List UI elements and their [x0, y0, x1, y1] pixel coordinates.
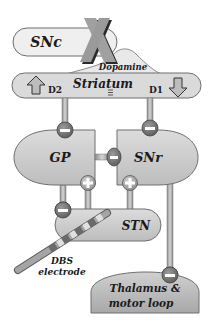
synapse-plus-stn-snr [123, 176, 138, 191]
striatum-node: Striatum D2 D1 [12, 73, 201, 98]
minus-icon [145, 127, 155, 130]
thalamus-node: Thalamus & motor loop [91, 272, 199, 313]
synapse-plus-stn-gp [81, 176, 96, 191]
basal-ganglia-diagram: SNc Dopamine Striatum D2 D1 [0, 0, 211, 322]
d2-label: D2 [48, 85, 62, 95]
synapse-minus-gp-stn-overlay [55, 202, 71, 218]
snr-thalamus-stem [167, 180, 173, 272]
synapse-minus-striatum-gp [57, 122, 73, 138]
striatum-label: Striatum [73, 77, 133, 91]
synapse-minus-striatum-snr [142, 120, 158, 136]
dbs-label-line1: DBS [50, 256, 73, 266]
synapse-minus-thalamus-overlay [162, 267, 178, 283]
snc-label: SNc [30, 34, 62, 50]
thalamus-label-line2: motor loop [109, 297, 174, 309]
minus-icon [60, 129, 70, 132]
synapse-minus-gp-snr [107, 148, 121, 166]
thalamus-label-line1: Thalamus & [110, 282, 181, 294]
dbs-label-line2: electrode [38, 267, 86, 277]
d1-label: D1 [149, 85, 163, 95]
dopamine-label: Dopamine [98, 62, 148, 72]
stn-label: STN [122, 219, 152, 233]
minus-icon [110, 156, 118, 159]
snr-label: SNr [134, 150, 163, 165]
gp-node: GP [14, 130, 95, 185]
gp-label: GP [50, 150, 72, 165]
